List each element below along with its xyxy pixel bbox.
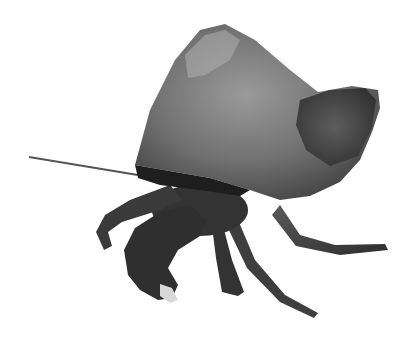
- hermit-crab-photo: [0, 0, 417, 340]
- antenna: [29, 157, 150, 177]
- walking-leg-right: [272, 205, 388, 255]
- walking-leg-middle: [228, 220, 318, 318]
- hermit-crab-illustration: [0, 0, 417, 340]
